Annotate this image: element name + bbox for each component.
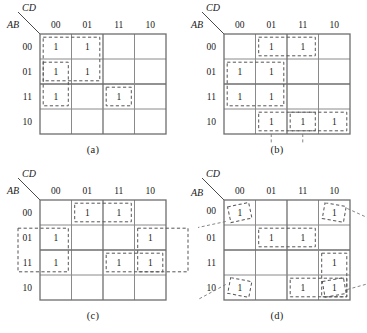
- kmap-cell-one: 1: [237, 283, 242, 293]
- column-header-01: 01: [83, 186, 93, 196]
- row-variable-label: AB: [190, 187, 203, 198]
- row-header-00: 00: [23, 208, 33, 218]
- row-header-00: 00: [207, 206, 217, 216]
- column-header-01: 01: [267, 186, 277, 196]
- kmap-panel-b: CDAB0001111000011110111111111: [188, 2, 366, 162]
- kmap-caption-b: (b): [188, 144, 366, 155]
- kmap-grid-b: CDAB0001111000011110111111111: [188, 2, 366, 162]
- column-header-10: 10: [330, 186, 340, 196]
- kmap-cell-one: 1: [332, 208, 337, 218]
- row-header-11: 11: [23, 92, 32, 102]
- column-header-00: 00: [51, 186, 61, 196]
- kmap-cell-one: 1: [85, 208, 90, 218]
- row-header-11: 11: [23, 258, 32, 268]
- kmap-cell-one: 1: [269, 117, 274, 127]
- kmap-cell-one: 1: [300, 42, 305, 52]
- column-header-00: 00: [235, 186, 245, 196]
- kmap-cell-one: 1: [300, 283, 305, 293]
- column-header-11: 11: [114, 186, 123, 196]
- kmap-cell-one: 1: [300, 233, 305, 243]
- row-header-00: 00: [23, 42, 33, 52]
- kmap-panel-d: CDAB000111100001111011111111: [188, 168, 366, 328]
- column-header-11: 11: [298, 186, 307, 196]
- column-variable-label: CD: [206, 2, 221, 13]
- variable-divider-line: [202, 178, 224, 200]
- row-header-01: 01: [23, 67, 33, 77]
- kmap-cell-one: 1: [85, 42, 90, 52]
- kmap-cell-one: 1: [237, 208, 242, 218]
- column-header-11: 11: [298, 20, 307, 30]
- column-header-01: 01: [267, 20, 277, 30]
- kmap-caption-d: (d): [188, 310, 366, 321]
- row-header-11: 11: [207, 92, 216, 102]
- kmap-panel-c: CDAB00011110000111101111111: [4, 168, 182, 328]
- kmap-panel-a: CDAB0001111000011110111111: [4, 2, 182, 162]
- kmap-cell-one: 1: [53, 233, 58, 243]
- row-header-11: 11: [207, 258, 216, 268]
- kmap-cell-one: 1: [269, 92, 274, 102]
- column-header-00: 00: [235, 20, 245, 30]
- kmap-cell-one: 1: [237, 92, 242, 102]
- kmap-cell-one: 1: [269, 233, 274, 243]
- kmap-cell-one: 1: [116, 258, 121, 268]
- column-variable-label: CD: [22, 2, 37, 13]
- row-header-10: 10: [23, 117, 33, 127]
- kmap-grid-c: CDAB00011110000111101111111: [4, 168, 182, 328]
- variable-divider-line: [18, 12, 40, 34]
- kmap-cell-one: 1: [332, 258, 337, 268]
- kmap-cell-one: 1: [53, 67, 58, 77]
- row-header-10: 10: [207, 117, 217, 127]
- kmap-cell-one: 1: [148, 233, 153, 243]
- kmap-caption-c: (c): [4, 310, 182, 321]
- kmap-caption-a: (a): [4, 144, 182, 155]
- column-header-10: 10: [330, 20, 340, 30]
- group-wrap-connector: [198, 222, 226, 228]
- variable-divider-line: [202, 12, 224, 34]
- row-variable-label: AB: [6, 185, 19, 196]
- kmap-cell-one: 1: [332, 117, 337, 127]
- row-variable-label: AB: [6, 19, 19, 30]
- row-header-00: 00: [207, 42, 217, 52]
- column-header-11: 11: [114, 20, 123, 30]
- column-header-10: 10: [146, 186, 156, 196]
- column-header-00: 00: [51, 20, 61, 30]
- kmap-cell-one: 1: [269, 42, 274, 52]
- kmap-cell-one: 1: [53, 42, 58, 52]
- kmap-cell-one: 1: [53, 92, 58, 102]
- karnaugh-map-figure: CDAB0001111000011110111111(a)CDAB0001111…: [0, 0, 367, 333]
- kmap-cell-one: 1: [332, 283, 337, 293]
- row-header-01: 01: [207, 67, 217, 77]
- kmap-cell-one: 1: [269, 67, 274, 77]
- variable-divider-line: [18, 178, 40, 200]
- kmap-grid-a: CDAB0001111000011110111111: [4, 2, 182, 162]
- kmap-cell-one: 1: [85, 67, 90, 77]
- column-header-01: 01: [83, 20, 93, 30]
- row-header-10: 10: [207, 283, 217, 293]
- kmap-cell-one: 1: [148, 258, 153, 268]
- kmap-cell-one: 1: [53, 258, 58, 268]
- kmap-grid-d: CDAB000111100001111011111111: [188, 168, 366, 328]
- row-header-01: 01: [207, 233, 217, 243]
- kmap-cell-one: 1: [300, 117, 305, 127]
- row-variable-label: AB: [190, 19, 203, 30]
- kmap-cell-one: 1: [116, 92, 121, 102]
- row-header-10: 10: [23, 283, 33, 293]
- column-variable-label: CD: [22, 168, 37, 179]
- column-variable-label: CD: [206, 168, 221, 179]
- kmap-cell-one: 1: [237, 67, 242, 77]
- row-header-01: 01: [23, 233, 33, 243]
- column-header-10: 10: [146, 20, 156, 30]
- kmap-cell-one: 1: [116, 208, 121, 218]
